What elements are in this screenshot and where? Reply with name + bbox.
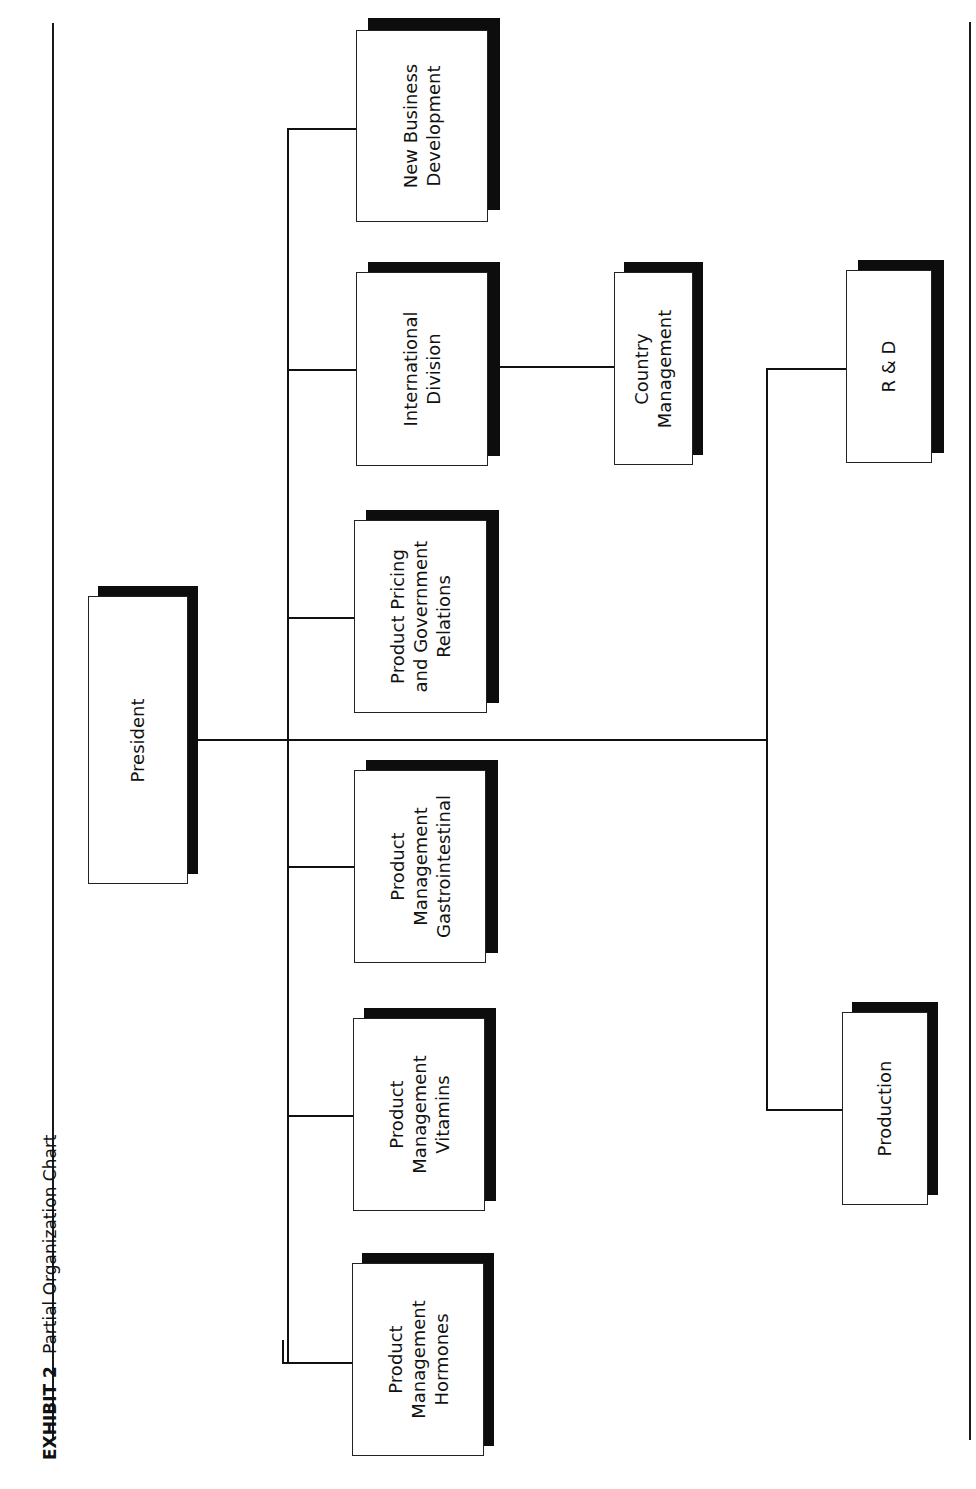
- connector-hormones-drop: [282, 1340, 284, 1364]
- node-label: New BusinessDevelopment: [399, 64, 445, 188]
- node-label: ProductManagementVitamins: [384, 1055, 453, 1174]
- box: Product Pricingand GovernmentRelations: [354, 520, 487, 713]
- connector-president-main: [188, 739, 768, 741]
- right-rule: [969, 22, 971, 1440]
- exhibit-number: EXHIBIT 2: [40, 1366, 60, 1460]
- connector-country: [498, 366, 614, 368]
- box: ProductManagementHormones: [352, 1263, 484, 1456]
- node-label: InternationalDivision: [399, 312, 445, 427]
- box: ProductManagementGastrointestinal: [354, 770, 486, 963]
- connector-hormones: [282, 1362, 352, 1364]
- box: ProductManagementVitamins: [353, 1018, 485, 1211]
- connector-gi: [287, 866, 354, 868]
- connector-right-spine: [766, 368, 768, 1111]
- chart-title: Partial Organization Chart: [40, 1134, 60, 1354]
- connector-intl: [287, 369, 356, 371]
- connector-vitamins: [287, 1115, 353, 1117]
- node-label: ProductManagementGastrointestinal: [386, 795, 455, 938]
- node-label: President: [127, 698, 150, 782]
- box: New BusinessDevelopment: [356, 30, 488, 222]
- node-label: CountryManagement: [631, 309, 677, 428]
- connector-nbd: [287, 128, 356, 130]
- box: President: [88, 596, 188, 884]
- node-label: Product Pricingand GovernmentRelations: [386, 541, 455, 693]
- exhibit-title: EXHIBIT 2Partial Organization Chart: [40, 1134, 60, 1460]
- box: R & D: [846, 270, 932, 463]
- connector-production: [766, 1109, 842, 1111]
- node-label: Production: [874, 1061, 897, 1157]
- connector-rnd: [766, 368, 846, 370]
- connector-pricing: [287, 617, 354, 619]
- node-label: ProductManagementHormones: [383, 1300, 452, 1419]
- box: Production: [842, 1012, 928, 1205]
- connector-left-spine: [287, 128, 289, 1364]
- node-label: R & D: [877, 341, 900, 393]
- box: CountryManagement: [614, 272, 693, 465]
- box: InternationalDivision: [356, 272, 488, 466]
